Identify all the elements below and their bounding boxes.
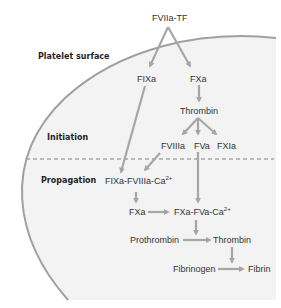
node-fviiia: FVIIIa	[161, 141, 185, 151]
tenase-main-text: FIXa-FVIIIa-Ca	[105, 176, 166, 186]
tenase-superscript: 2+	[166, 175, 173, 181]
node-thrombin-top: Thrombin	[180, 106, 218, 116]
node-fxa-top: FXa	[190, 74, 207, 84]
node-fibrinogen: Fibrinogen	[173, 264, 216, 274]
node-thrombin-bottom: Thrombin	[213, 235, 251, 245]
label-platelet-surface: Platelet surface	[38, 52, 109, 62]
label-propagation: Propagation	[41, 176, 96, 186]
node-fxa-bottom: FXa	[129, 207, 146, 217]
node-fxia: FXIa	[217, 141, 236, 151]
node-fva: FVa	[194, 141, 210, 151]
node-tenase-complex: FIXa-FVIIIa-Ca2+	[105, 176, 172, 186]
node-prothrombinase-complex: FXa-FVa-Ca2+	[174, 207, 231, 217]
node-fibrin: Fibrin	[248, 264, 271, 274]
node-fixa: FIXa	[137, 74, 156, 84]
prothrombinase-superscript: 2+	[224, 206, 231, 212]
node-fviia-tf: FVIIa-TF	[152, 13, 188, 23]
prothrombinase-main-text: FXa-FVa-Ca	[174, 207, 224, 217]
label-initiation: Initiation	[47, 133, 88, 143]
coagulation-diagram	[0, 0, 281, 308]
node-prothrombin: Prothrombin	[130, 235, 179, 245]
